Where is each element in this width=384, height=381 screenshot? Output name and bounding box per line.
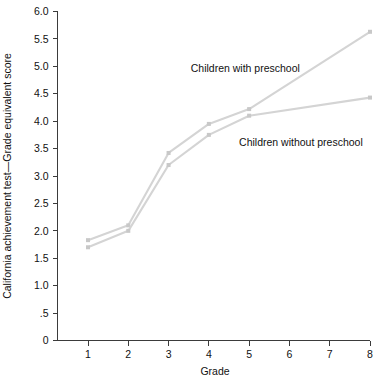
x-tick-label: 2 bbox=[125, 348, 131, 360]
y-tick-label: 5.0 bbox=[34, 60, 49, 72]
y-tick-label: 2.5 bbox=[34, 197, 49, 209]
series-data-point bbox=[368, 96, 372, 100]
series-data-point bbox=[167, 163, 171, 167]
y-tick-label: .5 bbox=[40, 307, 49, 319]
x-axis-title: Grade bbox=[200, 365, 229, 377]
series-data-point bbox=[126, 229, 130, 233]
series-data-point bbox=[247, 107, 251, 111]
y-tick-label: 0 bbox=[43, 334, 49, 346]
y-tick-label: 4.5 bbox=[34, 87, 49, 99]
y-tick-label: 2.0 bbox=[34, 225, 49, 237]
series-annotations-group: Children with preschoolChildren without … bbox=[191, 62, 363, 148]
x-tick-label: 1 bbox=[85, 348, 91, 360]
series-data-point bbox=[86, 238, 90, 242]
line-chart: 0.51.01.52.02.53.03.54.04.55.05.56.0 123… bbox=[0, 0, 384, 381]
series-annotation-label: Children without preschool bbox=[239, 136, 363, 148]
x-tick-label: 8 bbox=[367, 348, 373, 360]
x-tick-label: 6 bbox=[287, 348, 293, 360]
y-tick-label: 3.0 bbox=[34, 170, 49, 182]
axes-group: 0.51.01.52.02.53.03.54.04.55.05.56.0 123… bbox=[34, 5, 373, 359]
y-tick-label: 6.0 bbox=[34, 5, 49, 17]
y-tick-label: 3.5 bbox=[34, 142, 49, 154]
series-data-point bbox=[86, 245, 90, 249]
x-tick-label: 4 bbox=[206, 348, 212, 360]
y-axis-ticks: 0.51.01.52.02.53.03.54.04.55.05.56.0 bbox=[34, 5, 58, 346]
x-tick-label: 7 bbox=[327, 348, 333, 360]
y-tick-label: 1.0 bbox=[34, 279, 49, 291]
series-line bbox=[88, 98, 370, 248]
x-tick-label: 5 bbox=[246, 348, 252, 360]
series-data-point bbox=[368, 30, 372, 34]
series-data-point bbox=[207, 133, 211, 137]
y-tick-label: 4.0 bbox=[34, 115, 49, 127]
chart-container: 0.51.01.52.02.53.03.54.04.55.05.56.0 123… bbox=[0, 0, 384, 381]
series-annotation-label: Children with preschool bbox=[191, 62, 300, 74]
series-data-point bbox=[167, 151, 171, 155]
y-tick-label: 5.5 bbox=[34, 33, 49, 45]
y-tick-label: 1.5 bbox=[34, 252, 49, 264]
series-data-point bbox=[247, 114, 251, 118]
series-data-point bbox=[207, 122, 211, 126]
x-axis-ticks: 12345678 bbox=[85, 341, 373, 360]
x-tick-label: 3 bbox=[166, 348, 172, 360]
y-axis-title: California achievement test—Grade equiva… bbox=[1, 53, 13, 299]
